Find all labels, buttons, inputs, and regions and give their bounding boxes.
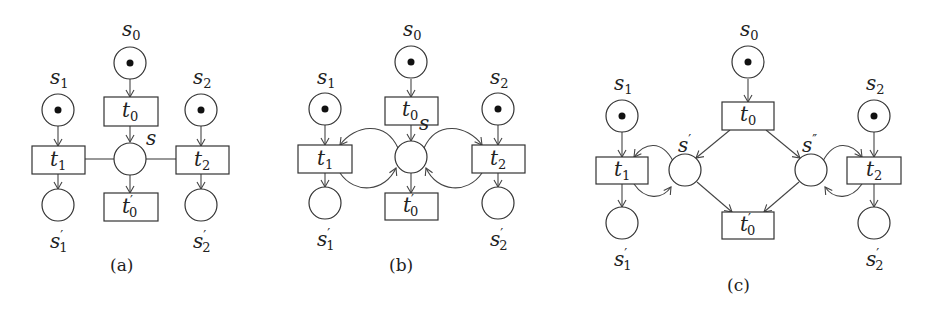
- token-s2: [495, 106, 502, 113]
- label-s0: s0: [403, 17, 422, 43]
- label-s: s: [146, 126, 156, 150]
- label-s0: s0: [740, 17, 759, 43]
- arc-t0-sp: [696, 130, 730, 158]
- arc-spp-t0p: [764, 182, 799, 212]
- label-s: s: [419, 111, 429, 135]
- caption-a: (a): [110, 255, 133, 275]
- figure-svg: s0 s1 s2 s s′1 s′2 t0 t1 t2 t′0 (a): [0, 0, 926, 310]
- place-s2-prime: [185, 189, 217, 221]
- label-s2: s2: [866, 71, 885, 97]
- label-s2-prime: s′2: [490, 226, 508, 253]
- arc-t2-spp: [825, 184, 862, 196]
- label-s-prime: s′: [678, 132, 691, 157]
- label-s1-prime: s′1: [614, 246, 632, 273]
- token-s1: [55, 107, 62, 114]
- place-s2-prime: [858, 207, 890, 239]
- petri-net-figure: s0 s1 s2 s s′1 s′2 t0 t1 t2 t′0 (a): [0, 0, 926, 310]
- arc-t1-sp: [634, 184, 671, 196]
- panel-c: s0 s1 s2 s′ s″ s′1 s′2 t0 t1 t2 t′0 (c): [596, 17, 901, 295]
- label-s0: s0: [122, 17, 141, 43]
- place-s-prime: [669, 154, 701, 186]
- label-s1: s1: [614, 71, 633, 97]
- label-s2-prime: s′2: [866, 246, 884, 273]
- token-s2: [198, 107, 205, 114]
- token-s0: [745, 59, 752, 66]
- label-s1: s1: [317, 65, 336, 91]
- place-s-double-prime: [795, 154, 827, 186]
- label-s-double-prime: s″: [802, 132, 817, 157]
- label-s2-prime: s′2: [193, 228, 211, 255]
- place-s: [395, 141, 427, 173]
- token-s2: [871, 113, 878, 120]
- arc-t0-spp: [766, 130, 800, 158]
- token-s1: [322, 106, 329, 113]
- label-s2: s2: [193, 65, 212, 91]
- place-s2-prime: [482, 187, 514, 219]
- panel-b: s0 s1 s2 s s′1 s′2 t0 t1 t2 t′0 (b): [298, 17, 525, 275]
- label-s1-prime: s′1: [317, 226, 335, 253]
- caption-b: (b): [389, 255, 413, 275]
- place-s1-prime: [309, 187, 341, 219]
- token-s0: [408, 59, 415, 66]
- label-s1-prime: s′1: [50, 228, 68, 255]
- caption-c: (c): [727, 275, 750, 295]
- token-s1: [619, 113, 626, 120]
- panel-a: s0 s1 s2 s s′1 s′2 t0 t1 t2 t′0 (a): [32, 17, 229, 275]
- place-s: [114, 143, 146, 175]
- place-s1-prime: [42, 189, 74, 221]
- label-s2: s2: [490, 65, 509, 91]
- token-s0: [127, 60, 134, 67]
- place-s1-prime: [606, 207, 638, 239]
- label-s1: s1: [50, 65, 69, 91]
- arc-sp-t0p: [697, 182, 732, 212]
